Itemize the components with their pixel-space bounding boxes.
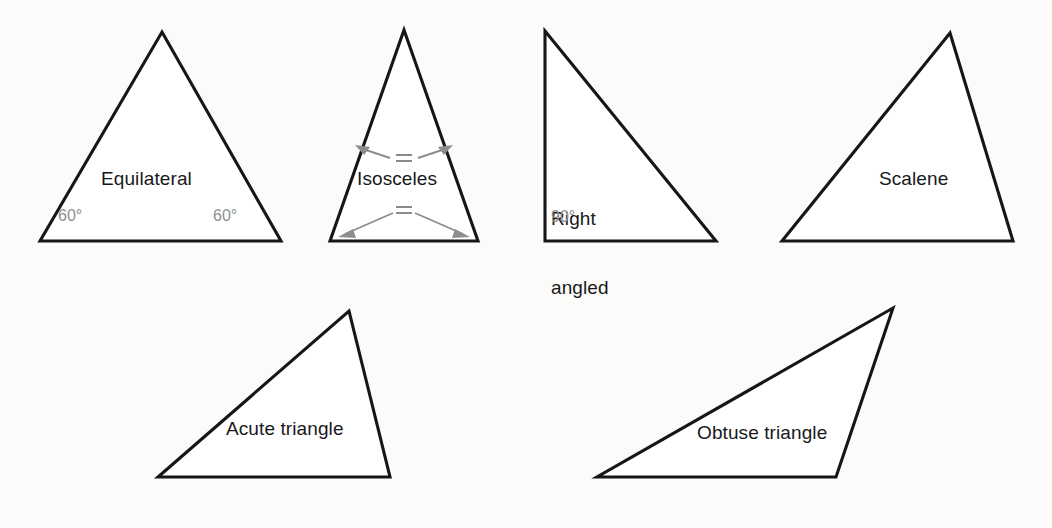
triangles-canvas (0, 0, 1052, 528)
right-angled-label: Right angled (551, 161, 609, 345)
acute-triangle-shape (158, 311, 390, 477)
scalene-label: Scalene (879, 167, 948, 190)
equilateral-angle-left-label: 60° (58, 206, 82, 225)
right-angled-angle-label: 90° (551, 207, 575, 226)
equilateral-angle-right-label: 60° (213, 206, 237, 225)
obtuse-triangle-shape (597, 308, 893, 477)
triangle-types-figure: Equilateral 60° 60° Isosceles Right angl… (0, 0, 1052, 528)
acute-triangle-label: Acute triangle (226, 417, 344, 440)
scalene-triangle-shape (782, 33, 1013, 241)
equilateral-label: Equilateral (101, 167, 192, 190)
isosceles-triangle-shape (330, 30, 478, 241)
right-angled-label-line2: angled (551, 276, 609, 299)
obtuse-triangle-label: Obtuse triangle (697, 421, 827, 444)
isosceles-label: Isosceles (357, 167, 437, 190)
